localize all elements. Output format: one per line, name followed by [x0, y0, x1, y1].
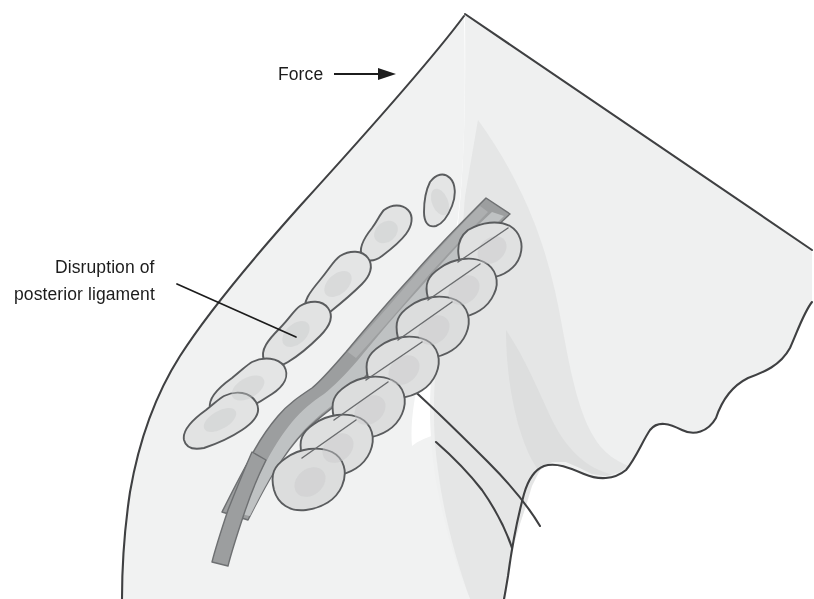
- force-label: Force: [278, 64, 323, 84]
- medical-illustration-figure: Force Disruption of posterior ligament C…: [0, 0, 814, 599]
- disruption-label-line1: Disruption of: [55, 257, 155, 277]
- right-arrow-icon: [334, 68, 396, 80]
- illustration-canvas: Force Disruption of posterior ligament: [0, 0, 814, 599]
- disruption-label-line2: posterior ligament: [14, 284, 155, 304]
